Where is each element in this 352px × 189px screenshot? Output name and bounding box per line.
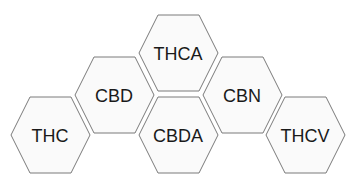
hex-cbda: CBDA [139,97,218,173]
hex-label-cbd: CBD [95,86,133,106]
hex-thca: THCA [139,15,218,91]
cannabinoid-hex-diagram: THC CBD THCA CBDA CBN THCV [0,0,352,189]
hex-thcv: THCV [266,97,345,173]
hex-cbd: CBD [75,57,154,133]
hex-label-cbda: CBDA [153,126,203,146]
hex-thc: THC [11,97,90,173]
hex-cbn: CBN [203,57,282,133]
hex-label-cbn: CBN [223,86,261,106]
hex-label-thcv: THCV [281,126,330,146]
hex-label-thc: THC [32,126,69,146]
hex-label-thca: THCA [154,44,203,64]
